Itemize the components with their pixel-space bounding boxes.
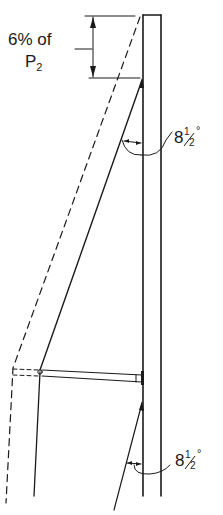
arrow-up-icon	[90, 17, 96, 28]
lower-angled-shroud	[114, 403, 142, 510]
upper-angle-marker	[122, 132, 172, 155]
upper-shroud	[40, 80, 142, 370]
dimension-label-line1: 6% of	[8, 30, 52, 49]
arrow-down-icon	[90, 66, 96, 77]
svg-text:°: °	[196, 124, 200, 136]
lower-angle-label: 8 1 2 °	[175, 447, 201, 471]
dimension-lines	[75, 16, 140, 78]
svg-text:2: 2	[190, 460, 196, 471]
svg-text:8: 8	[174, 128, 183, 147]
dimension-label-line2: P2	[25, 52, 42, 73]
lower-angle-marker	[127, 461, 170, 474]
svg-text:2: 2	[189, 137, 195, 148]
mast	[143, 15, 161, 496]
dashed-shroud-line	[6, 17, 140, 503]
upper-angle-label: 8 1 2 °	[174, 124, 200, 148]
rig-diagram: 6% of P2 8 1 2 ° 8 1 2 °	[0, 0, 223, 515]
lower-shroud	[34, 372, 40, 496]
svg-text:8: 8	[175, 451, 184, 470]
spreader	[13, 369, 144, 385]
svg-text:1: 1	[185, 449, 191, 460]
svg-text:°: °	[197, 447, 201, 459]
svg-text:1: 1	[184, 126, 190, 137]
